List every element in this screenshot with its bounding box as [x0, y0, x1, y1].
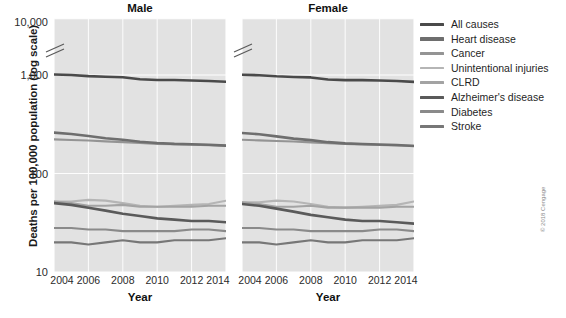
- copyright-credit: © 2018 Cengage: [540, 152, 546, 232]
- x-tick-label: 2014: [394, 274, 417, 286]
- y-tick-label: 10: [36, 266, 48, 278]
- series-line: [242, 238, 414, 244]
- x-tick-label: 2004: [50, 274, 73, 286]
- legend-item[interactable]: Diabetes: [420, 105, 560, 120]
- panel-male: Male: [54, 18, 226, 272]
- series-line: [242, 228, 414, 231]
- x-axis-tick-labels-female: 200420062008201020122014: [242, 274, 414, 288]
- plot-lines-male: [54, 18, 226, 272]
- legend-item[interactable]: Heart disease: [420, 32, 560, 47]
- x-axis-title-male: Year: [54, 291, 226, 305]
- x-tick-label: 2008: [111, 274, 134, 286]
- legend-item-label: Stroke: [451, 121, 481, 132]
- series-line: [54, 75, 226, 82]
- x-tick-label: 2012: [180, 274, 203, 286]
- panel-title-female: Female: [242, 2, 414, 14]
- legend-swatch-icon: [420, 110, 444, 113]
- legend-swatch-icon: [420, 52, 444, 55]
- x-tick-label: 2004: [238, 274, 261, 286]
- legend-item[interactable]: Unintentional injuries: [420, 61, 560, 76]
- x-axis-title-female: Year: [242, 291, 414, 305]
- legend-swatch-icon: [420, 67, 444, 70]
- x-tick-label: 2010: [146, 274, 169, 286]
- legend-item-label: Unintentional injuries: [451, 63, 548, 74]
- legend-item-label: Alzheimer's disease: [451, 92, 544, 103]
- axis-break-icon-male: [44, 40, 74, 62]
- x-tick-label: 2006: [77, 274, 100, 286]
- legend-item-label: CLRD: [451, 77, 480, 88]
- legend-swatch-icon: [420, 81, 444, 84]
- legend-item[interactable]: CLRD: [420, 75, 560, 90]
- x-tick-label: 2008: [299, 274, 322, 286]
- legend-item[interactable]: Stroke: [420, 119, 560, 134]
- legend-swatch-icon: [420, 23, 444, 26]
- plot-lines-female: [242, 18, 414, 272]
- legend-item-label: All causes: [451, 19, 499, 30]
- panel-female: Female: [242, 18, 414, 272]
- y-tick-label: 10,000: [14, 16, 48, 28]
- series-line: [54, 238, 226, 244]
- legend-item-label: Cancer: [451, 48, 485, 59]
- x-tick-label: 2014: [206, 274, 229, 286]
- legend-swatch-icon: [420, 96, 444, 99]
- legend-swatch-icon: [420, 125, 444, 128]
- legend: All causesHeart diseaseCancerUnintention…: [420, 17, 560, 134]
- legend-item-label: Diabetes: [451, 107, 492, 118]
- x-tick-label: 2012: [368, 274, 391, 286]
- figure-canvas: Deaths per 100,000 population (log scale…: [0, 0, 566, 318]
- legend-item[interactable]: Alzheimer's disease: [420, 90, 560, 105]
- panel-title-male: Male: [54, 2, 226, 14]
- legend-swatch-icon: [420, 37, 444, 40]
- series-line: [54, 228, 226, 231]
- y-tick-label: 100: [30, 168, 48, 180]
- legend-item-label: Heart disease: [451, 34, 516, 45]
- legend-item[interactable]: Cancer: [420, 46, 560, 61]
- legend-item[interactable]: All causes: [420, 17, 560, 32]
- axis-break-icon-female: [232, 40, 262, 62]
- x-tick-label: 2010: [334, 274, 357, 286]
- series-line: [242, 75, 414, 82]
- x-tick-label: 2006: [265, 274, 288, 286]
- x-axis-tick-labels-male: 200420062008201020122014: [54, 274, 226, 288]
- y-tick-label: 1,000: [20, 69, 48, 81]
